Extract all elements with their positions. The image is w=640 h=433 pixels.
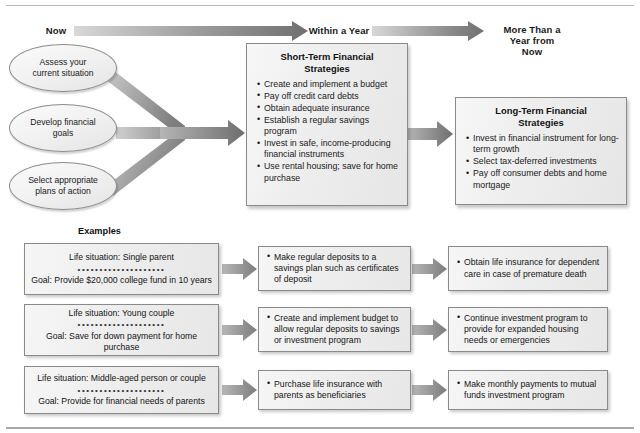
example-arrow-r3-c2 (412, 379, 447, 401)
example-dotted-divider: •••••••••••••••••••• (25, 387, 218, 394)
example-situation-box-young-couple: Life situation: Young couple •••••••••••… (24, 304, 219, 356)
long-term-list: Invest in financial instrument for long-… (456, 133, 626, 191)
example-action-text: Make regular deposits to a savings plan … (267, 252, 405, 286)
timeline-arrow-2 (372, 21, 484, 41)
example-action-text: Obtain life insurance for dependent care… (457, 257, 602, 279)
step-oval-assess-label: Assess your current situation (32, 57, 93, 79)
example-arrow-r2-c2 (412, 319, 447, 341)
example-arrow-r3-c1 (222, 379, 257, 401)
short-term-list: Create and implement a budget Pay off cr… (247, 79, 407, 184)
example-situation-box-middle-aged: Life situation: Middle-aged person or co… (24, 366, 219, 414)
example-situation: Life situation: Middle-aged person or co… (25, 373, 218, 384)
step-oval-select-plans-label: Select appropriate plans of action (28, 175, 98, 197)
example-arrow-r2-c1 (222, 319, 257, 341)
example-situation: Life situation: Young couple (25, 308, 218, 319)
step-oval-develop-goals: Develop financial goals (9, 104, 117, 152)
long-term-item: Select tax-deferred investments (466, 156, 620, 167)
example-action-text: Create and implement budget to allow reg… (267, 313, 405, 347)
example-long-term-action-young-couple: Continue investment program to provide f… (448, 307, 608, 352)
example-short-term-action-single-parent: Make regular deposits to a savings plan … (258, 246, 411, 291)
short-term-item: Invest in safe, income-producing financi… (257, 138, 401, 161)
timeline-label-within-a-year: Within a Year (300, 25, 378, 36)
short-term-item: Create and implement a budget (257, 79, 401, 90)
short-to-long-arrow (408, 121, 453, 147)
converging-arrows (106, 70, 245, 196)
example-dotted-divider: •••••••••••••••••••• (25, 266, 218, 273)
short-term-item: Obtain adequate insurance (257, 103, 401, 114)
examples-heading: Examples (78, 226, 121, 236)
short-term-title: Short-Term Financial Strategies (255, 51, 399, 74)
example-dotted-divider: •••••••••••••••••••• (25, 321, 218, 328)
long-term-title: Long-Term Financial Strategies (464, 105, 618, 128)
step-oval-develop-goals-label: Develop financial goals (30, 117, 95, 139)
example-arrow-r1-c2 (412, 258, 447, 280)
short-term-item: Pay off credit card debts (257, 91, 401, 102)
example-situation: Life situation: Single parent (25, 252, 218, 263)
example-long-term-action-middle-aged: Make monthly payments to mutual funds in… (448, 370, 608, 410)
long-term-item: Invest in financial instrument for long-… (466, 133, 620, 156)
long-term-item: Pay off consumer debts and home mortgage (466, 168, 620, 191)
example-short-term-action-middle-aged: Purchase life insurance with parents as … (258, 370, 411, 410)
timeline-label-more-than-a-year: More Than a Year from Now (489, 13, 575, 57)
timeline-arrow-1 (74, 21, 308, 41)
example-short-term-action-young-couple: Create and implement budget to allow reg… (258, 307, 411, 352)
example-arrow-r1-c1 (222, 258, 257, 280)
financial-planning-diagram: Now Within a Year More Than a Year from … (0, 0, 640, 433)
example-long-term-action-single-parent: Obtain life insurance for dependent care… (448, 246, 608, 291)
step-oval-select-plans: Select appropriate plans of action (9, 162, 117, 210)
example-action-text: Make monthly payments to mutual funds in… (457, 379, 602, 401)
short-term-item: Establish a regular savings program (257, 115, 401, 138)
example-action-text: Continue investment program to provide f… (457, 313, 602, 347)
step-oval-assess: Assess your current situation (9, 44, 117, 92)
example-action-text: Purchase life insurance with parents as … (267, 379, 405, 401)
timeline-label-now: Now (36, 25, 76, 36)
short-term-strategies-box: Short-Term Financial Strategies Create a… (246, 43, 408, 206)
example-goal: Goal: Provide $20,000 college fund in 10… (25, 275, 218, 286)
example-situation-box-single-parent: Life situation: Single parent ••••••••••… (24, 243, 219, 295)
figure-bottom-rule (6, 427, 634, 429)
figure-top-rule (6, 5, 634, 6)
example-goal: Goal: Provide for financial needs of par… (25, 396, 218, 407)
long-term-strategies-box: Long-Term Financial Strategies Invest in… (455, 97, 627, 205)
example-goal: Goal: Save for down payment for home pur… (25, 331, 218, 353)
short-term-item: Use rental housing; save for home purcha… (257, 161, 401, 184)
